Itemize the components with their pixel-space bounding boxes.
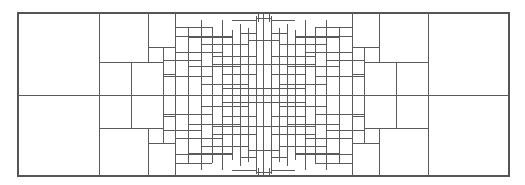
tiles-group [18,13,509,177]
tiling-diagram [0,0,525,185]
